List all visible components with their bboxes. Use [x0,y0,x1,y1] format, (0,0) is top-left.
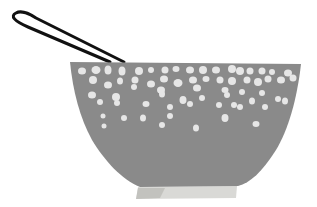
handle-icon [13,12,124,62]
colander-illustration [0,0,317,207]
